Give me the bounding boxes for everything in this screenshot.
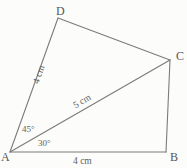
angle-label-DAC: 45° (22, 125, 35, 134)
vertex-label-D: D (56, 5, 65, 17)
vertex-label-B: B (170, 151, 178, 163)
side-CB (166, 60, 170, 152)
angle-label-CAB: 30° (38, 139, 51, 148)
length-label-AB: 4 cm (73, 157, 92, 167)
side-DC (58, 18, 170, 60)
vertex-label-A: A (1, 151, 10, 163)
geometry-figure: D C A B 4 cm 5 cm 4 cm 45° 30° (0, 0, 187, 168)
vertex-label-C: C (176, 50, 184, 62)
figure-drawing (0, 0, 187, 168)
